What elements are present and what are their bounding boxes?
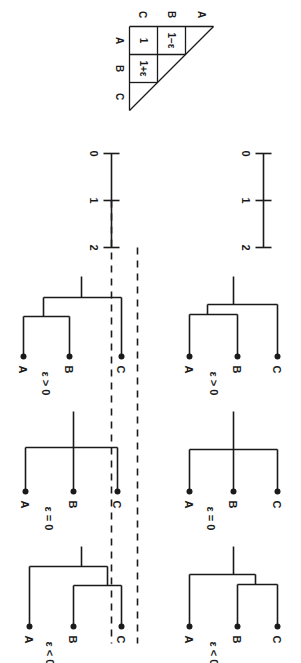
condition-label-eps-zero: ε = 0 [42,506,54,530]
tip-label-b: B [230,365,242,373]
matrix-row-label-a: A [195,10,206,17]
matrix-row-label-b: B [165,10,176,17]
scale-top-tick-0: 0 [239,150,251,156]
matrix-cell-c-b: 1+ε [137,60,148,76]
tip-dot-c [274,623,280,629]
tip-label-b: B [230,635,242,643]
tip-label-c: C [270,500,282,508]
tip-dot-c [274,353,280,359]
scale-bottom-tick-1: 1 [87,197,99,203]
tip-dot-a [186,353,192,359]
condition-label-eps-positive: ε > 0 [39,371,51,395]
tip-dot-c [274,488,280,494]
tip-label-c: C [114,635,126,643]
tree-bottom-eps-positive: C B A ε > 0 [5,270,141,388]
tip-label-a: A [16,365,28,373]
tip-dot-c [118,353,124,359]
scale-bar-bottom-svg: 0 1 2 [81,143,141,263]
matrix-svg: A B C A B C 1−ε 1 1+ε [101,8,231,128]
tip-dot-b [234,623,240,629]
condition-label-eps-zero: ε = 0 [204,506,216,530]
tree-bottom-eps-zero: C B A ε = 0 [5,405,141,523]
scale-bar-top-svg: 0 1 2 [233,143,293,263]
tip-dot-a [26,623,32,629]
scale-bottom-tick-2: 2 [87,244,99,250]
tip-label-c: C [110,500,122,508]
tip-label-a: A [18,500,30,508]
tree-top-eps-positive-svg: C B A ε > 0 [167,270,299,388]
tip-label-b: B [66,635,78,643]
tree-top-eps-positive: C B A ε > 0 [167,270,299,388]
matrix-col-label-b: B [113,64,124,71]
matrix-row-label-c: C [136,10,147,17]
tree-bottom-eps-zero-svg: C B A ε = 0 [5,405,141,523]
matrix-col-label-a: A [113,36,124,43]
matrix-col-label-c: C [113,92,124,99]
tip-dot-c [114,488,120,494]
condition-label-eps-positive: ε > 0 [207,371,219,395]
tip-dot-b [70,623,76,629]
tree-top-eps-negative: C B A ε < 0 [167,540,299,658]
tree-top-eps-zero: C B A ε = 0 [167,405,299,523]
tip-label-a: A [182,635,194,643]
tip-dot-b [70,488,76,494]
tip-dot-c [118,623,124,629]
tip-label-b: B [62,365,74,373]
scale-bottom-tick-0: 0 [87,150,99,156]
tip-label-c: C [270,635,282,643]
tip-label-c: C [270,365,282,373]
tree-top-eps-zero-svg: C B A ε = 0 [167,405,299,523]
tree-bottom-eps-positive-svg: C B A ε > 0 [5,270,141,388]
tip-label-b: B [226,500,238,508]
tip-dot-a [20,353,26,359]
matrix-cell-c-a: 1 [137,37,148,43]
tip-dot-a [22,488,28,494]
condition-label-eps-negative: ε < 0 [43,641,55,663]
tip-label-a: A [22,635,34,643]
distance-matrix: A B C A B C 1−ε 1 1+ε [101,8,231,128]
tip-dot-b [66,353,72,359]
tip-dot-b [230,488,236,494]
scale-bar-bottom: 0 1 2 [81,143,141,263]
scale-bar-top: 0 1 2 [233,143,293,263]
tree-top-eps-negative-svg: C B A ε < 0 [167,540,299,658]
tip-dot-b [234,353,240,359]
tree-bottom-eps-negative: C B A ε < 0 [5,540,141,658]
tip-label-c: C [114,365,126,373]
tip-label-a: A [182,500,194,508]
condition-label-eps-negative: ε < 0 [207,641,219,663]
tip-label-b: B [66,500,78,508]
tree-bottom-eps-negative-svg: C B A ε < 0 [5,540,141,658]
scale-top-tick-2: 2 [239,244,251,250]
tip-label-a: A [182,365,194,373]
matrix-cell-b-a: 1−ε [165,32,176,48]
tip-dot-a [186,488,192,494]
tip-dot-a [186,623,192,629]
scale-top-tick-1: 1 [239,197,251,203]
